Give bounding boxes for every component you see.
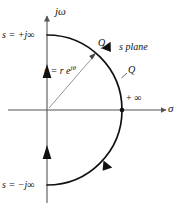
radius-expression-exponent: jθ — [70, 64, 75, 72]
s-plane-label: s plane — [119, 42, 148, 52]
sigma-axis-label: σ — [168, 103, 173, 114]
point-o-label: O — [98, 38, 105, 48]
axis-direction-arrow-lower — [43, 145, 52, 159]
s-plane-label-text: s plane — [119, 41, 148, 52]
plus-infinity-label: + ∞ — [126, 93, 141, 103]
radius-expression-base: s = r e — [44, 65, 70, 76]
s-plus-j-infinity-label: s = +j∞ — [2, 30, 34, 40]
s-minus-j-infinity-label: s = −j∞ — [2, 180, 34, 190]
s-plane-nyquist-contour-figure: jω σ s = +j∞ s = −j∞ s plane s = r ejθ O… — [0, 0, 182, 209]
q-leader-line — [122, 73, 128, 78]
plus-infinity-point-marker — [120, 108, 125, 113]
jomega-axis-label: jω — [55, 6, 66, 17]
radius-expression-label: s = r ejθ — [44, 65, 76, 76]
radius-leader-arrowhead — [89, 53, 96, 60]
point-q-label: Q — [128, 65, 135, 75]
